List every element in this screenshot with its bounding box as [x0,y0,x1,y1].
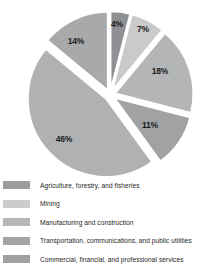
legend-item-label: Manufacturing and construction [40,219,134,226]
legend-swatch-icon [3,200,30,208]
legend-item-label: Mining [40,200,60,207]
pie-slice-label: 7% [137,24,149,34]
pie-slice-label: 18% [152,66,168,76]
legend-item[interactable]: Agriculture, forestry, and fisheries [0,176,219,195]
pie-chart-figure: 4%7%18%11%46%14% Agriculture, forestry, … [0,0,219,268]
legend-swatch-icon [3,218,30,226]
legend-swatch-icon [3,237,30,245]
legend-item[interactable]: Manufacturing and construction [0,213,219,232]
legend-swatch-icon [3,255,30,263]
legend-item[interactable]: Commercial, financial, and professional … [0,250,219,268]
pie-slice-label: 11% [142,120,158,130]
legend-item-label: Agriculture, forestry, and fisheries [40,182,140,189]
pie-svg [0,0,219,176]
legend-item-label: Commercial, financial, and professional … [40,256,184,263]
legend-swatch-icon [3,181,30,189]
pie-slice-label: 14% [68,36,84,46]
chart-legend: Agriculture, forestry, and fisheriesMini… [0,176,219,268]
legend-item[interactable]: Mining [0,195,219,214]
pie-slice-label: 46% [56,134,72,144]
legend-item[interactable]: Transportation, communications, and publ… [0,232,219,251]
pie-slice-group [28,12,193,176]
pie-slice-label: 4% [111,19,123,29]
legend-item-label: Transportation, communications, and publ… [40,237,192,244]
pie-plot-area: 4%7%18%11%46%14% [0,0,219,176]
